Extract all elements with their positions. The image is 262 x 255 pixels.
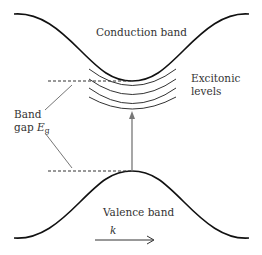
band-gap-symbol: E <box>37 121 45 133</box>
k-axis-label: k <box>110 224 116 237</box>
excitonic-levels-label-line2: levels <box>191 85 221 98</box>
band-gap-label-line1: Band <box>14 108 41 121</box>
conduction-band-curve <box>14 14 249 81</box>
band-gap-label-line2: gap Eg <box>14 121 50 137</box>
valence-band-label: Valence band <box>103 206 174 219</box>
transition-arrow-head <box>129 111 135 119</box>
valence-band-curve <box>14 171 249 238</box>
excitonic-levels-label-line1: Excitonic <box>191 72 240 85</box>
band-gap-leader-lower <box>45 133 72 168</box>
band-gap-subscript: g <box>45 126 50 135</box>
band-gap-leader-upper <box>45 85 72 110</box>
band-gap-prefix: gap <box>14 121 37 133</box>
exciton-level-arc-3 <box>89 88 176 104</box>
conduction-band-label: Conduction band <box>96 26 187 39</box>
band-diagram: Conduction band Valence band Excitonic l… <box>0 0 262 255</box>
exciton-level-arc-1 <box>89 69 176 86</box>
